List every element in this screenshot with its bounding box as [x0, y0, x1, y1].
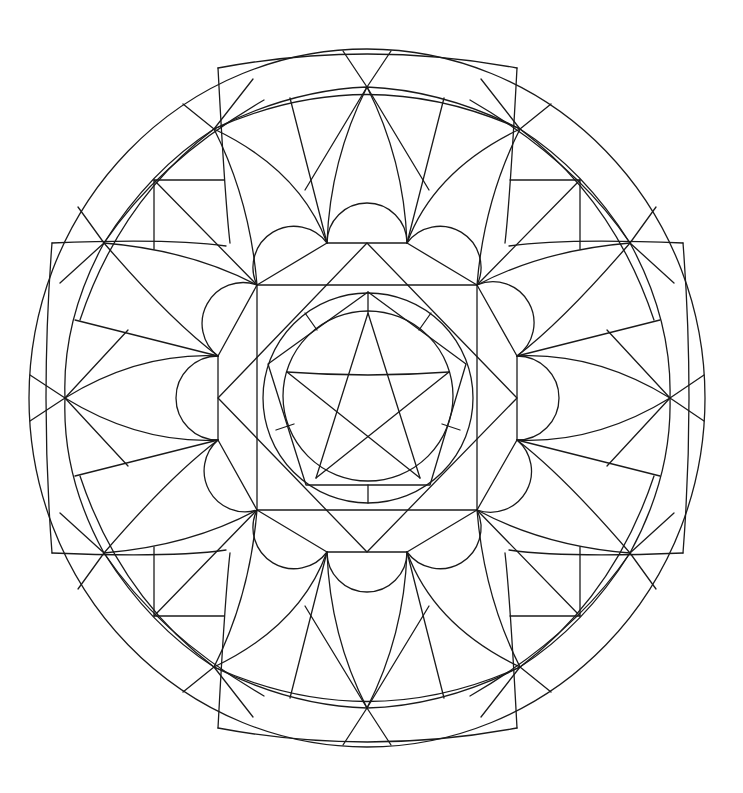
pentagram [287, 313, 449, 478]
mandala-drawing [0, 0, 743, 793]
circle-ticks [276, 292, 460, 503]
star-outer-circle [263, 293, 473, 503]
rim-triangles [30, 51, 704, 745]
inner-square [257, 285, 477, 510]
rim-arcs [46, 54, 689, 742]
outer-circle [29, 49, 705, 747]
mandala-canvas: Geometric mandala coloring page [0, 0, 743, 793]
pentagon [268, 292, 466, 485]
